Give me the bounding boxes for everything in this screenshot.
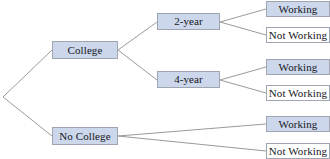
tree-edge-college-two-year	[118, 22, 157, 50]
tree-diagram: CollegeNo College2-year4-yearWorkingNot …	[0, 0, 330, 159]
tree-node-label: Not Working	[269, 30, 327, 41]
tree-edge-root-college	[3, 50, 52, 97]
tree-edge-no-college-working	[118, 124, 266, 136]
tree-node-four-year[interactable]: 4-year	[157, 71, 220, 88]
tree-node-label: 2-year	[174, 16, 203, 27]
tree-node-label: Working	[279, 4, 318, 15]
tree-edge-four-year-not-working	[220, 80, 266, 93]
tree-node-two-working[interactable]: Working	[266, 1, 330, 17]
tree-edge-college-four-year	[118, 50, 157, 80]
tree-edge-root-no-college	[3, 97, 52, 136]
tree-node-two-year[interactable]: 2-year	[157, 13, 220, 30]
tree-node-label: Not Working	[269, 88, 327, 99]
tree-node-college[interactable]: College	[52, 41, 118, 59]
tree-node-label: College	[68, 45, 103, 56]
tree-node-nc-working[interactable]: Working	[266, 116, 330, 132]
tree-edge-four-year-working	[220, 67, 266, 80]
tree-node-nc-not-working[interactable]: Not Working	[266, 143, 330, 159]
tree-node-two-not-working[interactable]: Not Working	[266, 27, 330, 43]
tree-node-label: Not Working	[269, 146, 327, 157]
tree-node-label: 4-year	[174, 74, 203, 85]
tree-edge-no-college-not-working	[118, 136, 266, 151]
tree-node-label: No College	[59, 131, 110, 142]
tree-node-label: Working	[279, 119, 318, 130]
tree-node-four-working[interactable]: Working	[266, 59, 330, 75]
tree-node-label: Working	[279, 62, 318, 73]
tree-edge-two-year-working	[220, 9, 266, 22]
tree-node-no-college[interactable]: No College	[52, 127, 118, 145]
tree-node-four-not-working[interactable]: Not Working	[266, 85, 330, 101]
tree-edge-two-year-not-working	[220, 22, 266, 35]
